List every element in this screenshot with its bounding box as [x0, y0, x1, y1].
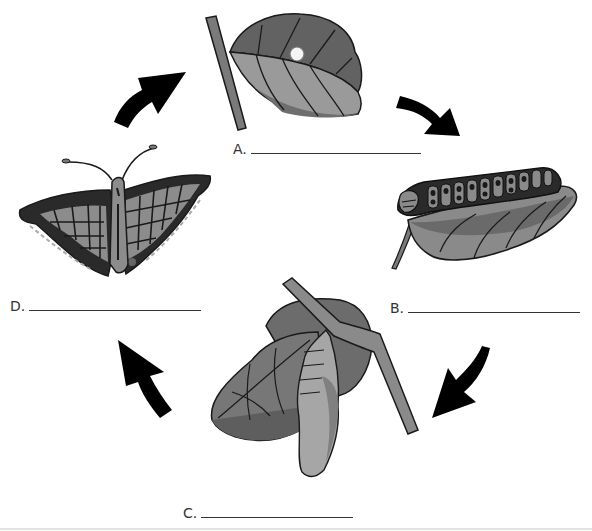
label-a: A.	[233, 142, 421, 156]
antennae	[68, 148, 154, 180]
bottom-divider	[0, 528, 592, 530]
label-d-letter: D.	[10, 299, 25, 313]
label-c-letter: C.	[183, 506, 197, 520]
stage-c-chrysalis-on-branch	[211, 278, 418, 476]
diagram-art	[0, 0, 592, 531]
label-d: D.	[10, 299, 201, 313]
arrow-b-to-c-icon	[432, 346, 490, 418]
stage-a-egg-on-leaf	[206, 14, 362, 130]
arrow-d-to-a-icon	[114, 72, 186, 128]
life-cycle-diagram: A. B. C. D.	[0, 0, 592, 531]
label-b-letter: B.	[390, 301, 404, 315]
egg-icon	[290, 47, 304, 61]
answer-blank-b[interactable]	[408, 312, 580, 313]
answer-blank-a[interactable]	[251, 153, 421, 154]
stage-d-butterfly	[20, 145, 211, 276]
label-c: C.	[183, 506, 353, 520]
label-a-letter: A.	[233, 142, 247, 156]
label-b: B.	[390, 301, 580, 315]
stage-b-caterpillar-on-leaf	[392, 168, 576, 269]
arrow-a-to-b-icon	[396, 96, 460, 136]
arrow-c-to-d-icon	[118, 340, 172, 418]
stem	[206, 16, 246, 130]
answer-blank-c[interactable]	[201, 517, 353, 518]
answer-blank-d[interactable]	[29, 310, 201, 311]
